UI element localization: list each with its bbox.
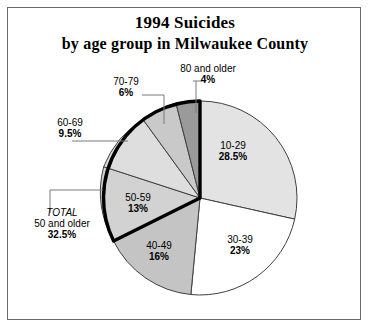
label-60-69-pct: 9.5%	[38, 128, 102, 139]
label-10-29-name: 10-29	[194, 140, 272, 151]
label-total-name: 50 and older	[14, 218, 110, 229]
label-60-69-name: 60-69	[38, 117, 102, 128]
label-30-39: 30-39 23%	[201, 234, 279, 256]
label-total-pct: 32.5%	[14, 229, 110, 240]
label-70-79: 70-79 6%	[98, 76, 154, 98]
label-40-49-pct: 16%	[123, 251, 195, 262]
label-40-49: 40-49 16%	[123, 240, 195, 262]
label-70-79-pct: 6%	[98, 87, 154, 98]
label-10-29: 10-29 28.5%	[194, 140, 272, 162]
chart-page: 1994 Suicides by age group in Milwaukee …	[0, 0, 370, 328]
label-total-word: TOTAL	[14, 207, 110, 218]
label-70-79-name: 70-79	[98, 76, 154, 87]
label-50-59-name: 50-59	[104, 192, 172, 203]
label-total-50-and-older: TOTAL 50 and older 32.5%	[14, 207, 110, 240]
label-80-and-older-name: 80 and older	[166, 63, 250, 74]
label-50-59-pct: 13%	[104, 203, 172, 214]
label-30-39-name: 30-39	[201, 234, 279, 245]
label-60-69: 60-69 9.5%	[38, 117, 102, 139]
label-40-49-name: 40-49	[123, 240, 195, 251]
label-50-59: 50-59 13%	[104, 192, 172, 214]
pie-chart-graphic	[0, 0, 370, 328]
label-30-39-pct: 23%	[201, 245, 279, 256]
label-80-and-older-pct: 4%	[166, 74, 250, 85]
label-80-and-older: 80 and older 4%	[166, 63, 250, 85]
label-10-29-pct: 28.5%	[194, 151, 272, 162]
